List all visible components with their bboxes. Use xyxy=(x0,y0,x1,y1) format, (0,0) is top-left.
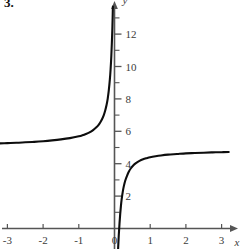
function-graph: -3-2-1012324681012xy xyxy=(0,0,245,249)
curve-left-branch xyxy=(0,7,113,144)
y-axis-label: y xyxy=(122,0,128,6)
x-axis-tick-label: 0 xyxy=(112,234,118,246)
y-axis-tick-label: 10 xyxy=(126,61,138,73)
y-axis-tick-label: 12 xyxy=(126,28,137,40)
x-axis-tick-label: 2 xyxy=(183,234,189,246)
y-axis-tick-label: 8 xyxy=(126,93,132,105)
y-axis-tick-label: 2 xyxy=(126,190,132,202)
x-axis-tick-label: -1 xyxy=(74,234,83,246)
x-axis-tick-label: 1 xyxy=(147,234,153,246)
figure-container: 3. -3-2-1012324681012xy xyxy=(0,0,245,249)
y-axis-tick-label: 6 xyxy=(126,125,132,137)
x-axis-label: x xyxy=(234,236,240,248)
x-axis-tick-label: -2 xyxy=(39,234,48,246)
x-axis-tick-label: 3 xyxy=(219,234,225,246)
y-axis-tick-label: 4 xyxy=(126,158,132,170)
x-axis-tick-label: -3 xyxy=(3,234,13,246)
x-axis-arrow xyxy=(230,225,238,232)
curve-right-branch xyxy=(118,152,229,249)
